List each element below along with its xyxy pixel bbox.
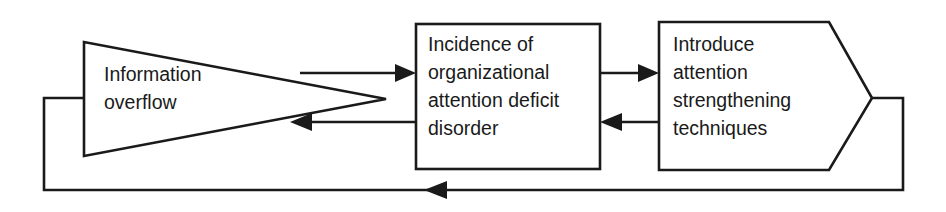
node-attention-deficit-disorder-line3: attention deficit bbox=[428, 89, 560, 111]
diagram-canvas: Information overflow Incidence of organi… bbox=[0, 0, 946, 212]
node-attention-strengthening-line3: strengthening bbox=[673, 89, 791, 111]
node-information-overflow[interactable]: Information overflow bbox=[84, 42, 386, 156]
connector-disorder-to-techniques bbox=[600, 64, 659, 82]
node-information-overflow-line1: Information bbox=[104, 63, 202, 85]
connector-overflow-to-disorder bbox=[300, 64, 416, 82]
node-information-overflow-line2: overflow bbox=[104, 91, 178, 113]
connector-techniques-to-disorder bbox=[600, 113, 659, 131]
node-attention-deficit-disorder-line1: Incidence of bbox=[428, 33, 534, 55]
node-attention-deficit-disorder-line4: disorder bbox=[428, 117, 499, 139]
connector-disorder-to-overflow bbox=[290, 113, 416, 131]
node-attention-deficit-disorder[interactable]: Incidence of organizational attention de… bbox=[416, 24, 600, 169]
node-attention-strengthening-line1: Introduce bbox=[673, 33, 754, 55]
arrow-head-left-icon bbox=[600, 113, 622, 131]
node-attention-strengthening-line2: attention bbox=[673, 61, 748, 83]
flow-diagram: Information overflow Incidence of organi… bbox=[0, 0, 946, 212]
node-attention-deficit-disorder-line2: organizational bbox=[428, 61, 549, 83]
node-attention-strengthening-line4: techniques bbox=[673, 117, 768, 139]
arrow-head-right-icon bbox=[395, 64, 416, 82]
arrow-head-right-icon bbox=[638, 64, 659, 82]
node-attention-strengthening[interactable]: Introduce attention strengthening techni… bbox=[659, 22, 872, 170]
arrow-head-left-icon bbox=[424, 181, 447, 199]
